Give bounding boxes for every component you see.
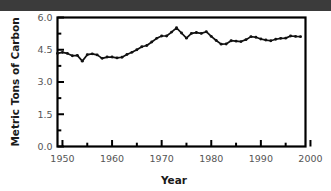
data-point-marker <box>106 56 109 59</box>
data-series-markers <box>56 26 302 62</box>
y-tick-label: 4.5 <box>37 44 52 55</box>
line-chart: 1950196019701980199020000.01.53.04.56.0 … <box>0 0 331 191</box>
data-point-marker <box>249 35 252 38</box>
data-point-marker <box>220 43 223 46</box>
data-point-marker <box>205 30 208 33</box>
y-tick-label: 0.0 <box>37 141 52 152</box>
data-point-marker <box>215 39 218 42</box>
data-point-marker <box>116 56 119 59</box>
data-point-marker <box>170 31 173 34</box>
data-point-marker <box>274 38 277 41</box>
plot-frame <box>58 18 306 147</box>
data-point-marker <box>230 39 233 42</box>
x-tick-label: 1950 <box>50 153 74 164</box>
data-point-marker <box>264 39 267 42</box>
data-point-marker <box>210 35 213 38</box>
axis-ticks <box>58 18 311 147</box>
figure-canvas: 1950196019701980199020000.01.53.04.56.0 … <box>0 0 331 191</box>
y-tick-label: 6.0 <box>37 12 52 23</box>
data-point-marker <box>259 38 262 41</box>
data-point-marker <box>145 44 148 47</box>
data-point-marker <box>150 41 153 44</box>
data-point-marker <box>140 45 143 48</box>
data-point-marker <box>101 57 104 60</box>
data-point-marker <box>56 52 59 55</box>
axis-tick-labels: 1950196019701980199020000.01.53.04.56.0 <box>37 12 322 164</box>
y-tick-label: 3.0 <box>37 76 52 87</box>
data-point-marker <box>125 53 128 56</box>
data-point-marker <box>81 60 84 63</box>
data-point-marker <box>245 38 248 41</box>
data-point-marker <box>185 37 188 40</box>
data-point-marker <box>235 40 238 43</box>
data-point-marker <box>111 56 114 59</box>
data-point-marker <box>299 35 302 38</box>
data-series-line <box>58 28 301 61</box>
data-point-marker <box>135 48 138 51</box>
data-point-marker <box>66 52 69 55</box>
data-point-marker <box>155 37 158 40</box>
data-point-marker <box>160 35 163 38</box>
data-point-marker <box>195 31 198 34</box>
x-tick-label: 1990 <box>249 153 273 164</box>
data-point-marker <box>225 43 228 46</box>
data-point-marker <box>96 53 99 56</box>
x-axis-title: Year <box>160 174 188 186</box>
y-tick-label: 1.5 <box>37 109 52 120</box>
data-point-marker <box>91 52 94 55</box>
data-point-marker <box>200 32 203 35</box>
data-point-marker <box>71 54 74 57</box>
x-tick-label: 2000 <box>298 153 322 164</box>
x-tick-label: 1980 <box>199 153 223 164</box>
data-point-marker <box>121 56 124 59</box>
data-point-marker <box>279 37 282 40</box>
data-point-marker <box>190 32 193 35</box>
data-point-marker <box>76 54 79 57</box>
x-tick-label: 1960 <box>100 153 124 164</box>
data-point-marker <box>294 35 297 38</box>
data-point-marker <box>240 40 243 43</box>
data-point-marker <box>180 32 183 35</box>
y-axis-title: Metric Tons of Carbon <box>9 17 21 146</box>
data-point-marker <box>165 35 168 38</box>
data-point-marker <box>289 35 292 38</box>
data-point-marker <box>86 53 89 56</box>
data-point-marker <box>254 36 257 39</box>
data-point-marker <box>130 51 133 54</box>
data-point-marker <box>175 26 178 29</box>
x-tick-label: 1970 <box>150 153 174 164</box>
data-point-marker <box>284 37 287 40</box>
data-point-marker <box>269 39 272 42</box>
data-point-marker <box>61 51 64 54</box>
